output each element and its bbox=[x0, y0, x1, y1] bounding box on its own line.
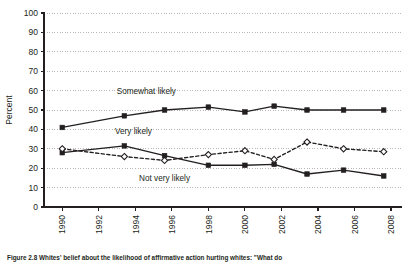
x-tick-label: 2008 bbox=[386, 215, 396, 234]
data-point-marker bbox=[271, 156, 277, 162]
x-tick-label: 1990 bbox=[57, 215, 67, 234]
y-tick-label: 60 bbox=[29, 86, 39, 96]
data-point-marker bbox=[206, 163, 211, 168]
data-point-marker bbox=[305, 108, 310, 113]
y-axis: 0102030405060708090100 bbox=[24, 8, 44, 212]
y-tick-label: 90 bbox=[29, 27, 39, 37]
data-point-marker bbox=[381, 108, 386, 113]
data-point-marker bbox=[206, 105, 211, 110]
data-point-marker bbox=[243, 110, 248, 115]
data-point-marker bbox=[340, 146, 346, 152]
y-tick-label: 100 bbox=[24, 8, 38, 18]
x-tick-label: 2000 bbox=[240, 215, 250, 234]
series-not-very-likely bbox=[59, 139, 387, 164]
data-point-marker bbox=[161, 157, 167, 163]
line-chart: 0102030405060708090100 19901992199419961… bbox=[0, 0, 409, 264]
y-tick-label: 10 bbox=[29, 183, 39, 193]
series-somewhat-likely bbox=[60, 104, 386, 130]
data-point-marker bbox=[243, 163, 248, 168]
y-tick-label: 50 bbox=[29, 105, 39, 115]
x-tick-label: 2004 bbox=[313, 215, 323, 234]
data-point-marker bbox=[162, 108, 167, 113]
data-point-marker bbox=[341, 168, 346, 173]
data-point-marker bbox=[304, 139, 310, 145]
x-tick-label: 2002 bbox=[277, 215, 287, 234]
data-point-marker bbox=[205, 152, 211, 158]
y-tick-label: 40 bbox=[29, 124, 39, 134]
data-point-marker bbox=[122, 144, 127, 149]
y-tick-label: 0 bbox=[33, 202, 38, 212]
x-tick-label: 1996 bbox=[167, 215, 177, 234]
figure-container: 0102030405060708090100 19901992199419961… bbox=[0, 0, 409, 264]
series-label-very-likely: Very likely bbox=[115, 127, 153, 136]
x-tick-label: 1994 bbox=[131, 215, 141, 234]
data-point-marker bbox=[381, 174, 386, 179]
series-label-not-very-likely: Not very likely bbox=[139, 174, 191, 183]
data-point-marker bbox=[305, 172, 310, 177]
y-tick-label: 20 bbox=[29, 163, 39, 173]
x-tick-label: 1998 bbox=[204, 215, 214, 234]
y-tick-label: 80 bbox=[29, 47, 39, 57]
data-point-marker bbox=[381, 149, 387, 155]
y-axis-title: Percent bbox=[4, 95, 14, 125]
x-tick-label: 1992 bbox=[94, 215, 104, 234]
y-tick-label: 30 bbox=[29, 144, 39, 154]
series-very-likely bbox=[60, 144, 386, 179]
figure-caption: Figure 2.8 Whites' belief about the like… bbox=[7, 254, 409, 262]
data-point-marker bbox=[122, 114, 127, 119]
data-point-marker bbox=[121, 153, 127, 159]
data-point-marker bbox=[60, 125, 65, 130]
series-label-somewhat-likely: Somewhat likely bbox=[117, 87, 177, 96]
data-point-marker bbox=[341, 108, 346, 113]
data-point-marker bbox=[272, 104, 277, 109]
y-tick-label: 70 bbox=[29, 66, 39, 76]
data-series-layer bbox=[59, 104, 387, 178]
x-axis: 1990199219941996199820002002200420062008 bbox=[44, 207, 402, 234]
x-tick-label: 2006 bbox=[350, 215, 360, 234]
